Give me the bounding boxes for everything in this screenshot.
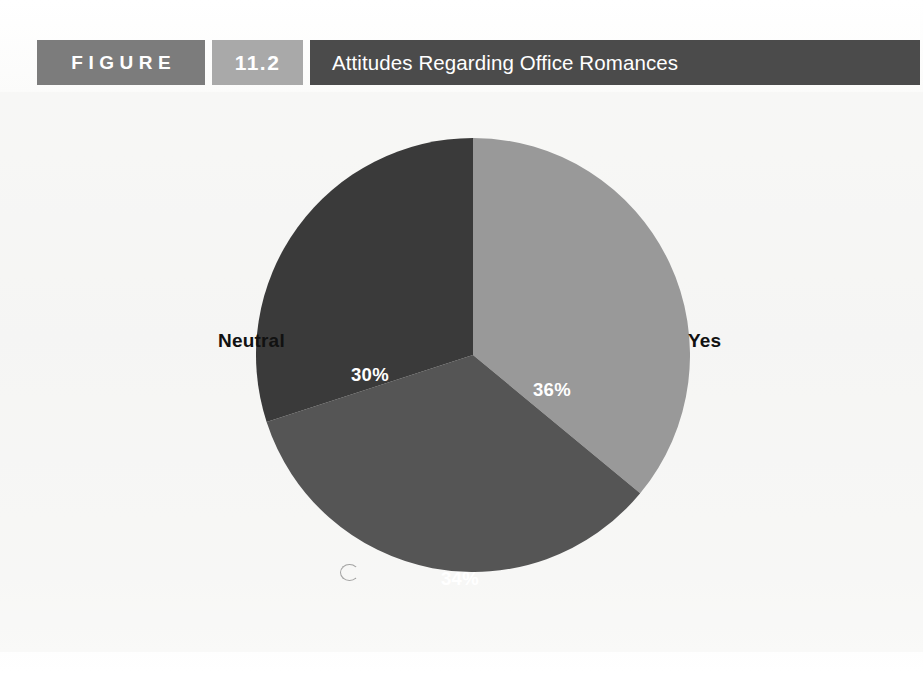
- figure-number-block: 11.2: [212, 40, 303, 85]
- header-gap-1: [205, 40, 212, 85]
- chart-area: Neutral Yes No 30% 36% 34%: [0, 92, 923, 652]
- figure-header-bar: FIGURE 11.2 Attitudes Regarding Office R…: [37, 40, 920, 85]
- header-gap-2: [303, 40, 310, 85]
- pie-chart-svg: [256, 138, 690, 572]
- pie-label-yes: Yes: [688, 330, 721, 352]
- pie-chart: [256, 138, 690, 572]
- figure-label-block: FIGURE: [37, 40, 205, 85]
- figure-title-block: Attitudes Regarding Office Romances: [310, 40, 920, 85]
- scan-artifact-speck: [340, 564, 359, 581]
- pie-value-neutral: 30%: [351, 364, 389, 386]
- pie-label-neutral: Neutral: [218, 330, 285, 352]
- pie-value-no: 34%: [441, 568, 479, 590]
- pie-value-yes: 36%: [533, 379, 571, 401]
